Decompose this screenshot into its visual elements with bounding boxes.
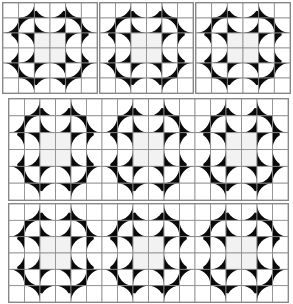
quilt-pattern-graphic	[9, 204, 288, 302]
quilt-block-2	[99, 2, 194, 94]
quilt-pattern-graphic	[3, 3, 97, 93]
quilt-pattern-graphic	[100, 3, 193, 93]
quilt-block-1	[2, 2, 98, 94]
quilt-pattern-graphic	[9, 99, 288, 200]
quilt-strip-2	[8, 203, 289, 303]
quilt-block-3	[195, 2, 291, 94]
quilt-pattern-graphic	[196, 3, 290, 93]
quilt-strip-1	[8, 98, 289, 201]
